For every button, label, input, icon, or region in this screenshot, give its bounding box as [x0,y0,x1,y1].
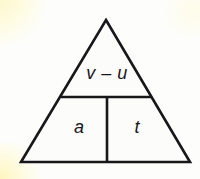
cell-label-top: v – u [62,64,152,82]
cell-label-bottom-right: t [116,118,158,136]
triangle-outline [21,20,190,162]
cell-label-bottom-left: a [58,118,100,136]
diagram-canvas: v – u a t [0,0,200,179]
formula-triangle-figure [0,0,200,179]
